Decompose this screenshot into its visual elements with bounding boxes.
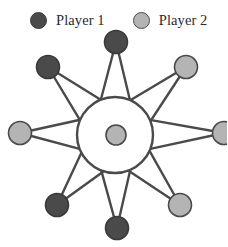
player-1-swatch-icon — [30, 12, 47, 29]
legend-entry-player-2: Player 2 — [133, 12, 208, 29]
node-left[interactable] — [9, 122, 32, 145]
node-bottom-right[interactable] — [169, 194, 192, 217]
legend-label-player-1: Player 1 — [56, 13, 105, 28]
node-bottom[interactable] — [106, 217, 129, 240]
node-top-left[interactable] — [37, 56, 60, 79]
center-node[interactable] — [106, 125, 126, 145]
node-top-right[interactable] — [175, 56, 198, 79]
star-graph-figure: Player 1 Player 2 — [0, 0, 227, 247]
graph-canvas — [0, 0, 227, 247]
nodes-layer — [9, 31, 228, 240]
legend-entry-player-1: Player 1 — [30, 12, 105, 29]
player-2-swatch-icon — [133, 12, 150, 29]
legend-label-player-2: Player 2 — [159, 13, 208, 28]
node-right[interactable] — [213, 122, 228, 145]
legend: Player 1 Player 2 — [0, 7, 227, 33]
node-top[interactable] — [105, 31, 128, 54]
node-bottom-left[interactable] — [46, 194, 69, 217]
